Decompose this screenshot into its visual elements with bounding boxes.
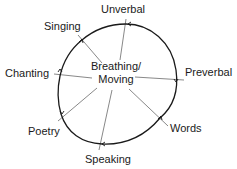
node-chanting: Chanting xyxy=(5,67,49,79)
breathing-cycle-diagram: Breathing/ Moving Unverbal Preverbal Wor… xyxy=(0,0,237,169)
node-poetry: Poetry xyxy=(28,125,60,137)
center-node: Breathing/ Moving xyxy=(81,60,151,86)
center-label-line1: Breathing/ xyxy=(81,60,151,73)
node-unverbal: Unverbal xyxy=(101,3,145,15)
spoke-poetry xyxy=(58,88,97,121)
spoke-speaking xyxy=(99,90,112,150)
center-label-line2: Moving xyxy=(81,73,151,86)
node-singing: Singing xyxy=(44,20,81,32)
node-speaking: Speaking xyxy=(85,153,131,165)
spoke-unverbal xyxy=(120,19,126,60)
node-preverbal: Preverbal xyxy=(185,66,232,78)
spoke-words xyxy=(129,89,168,126)
node-words: Words xyxy=(170,122,202,134)
